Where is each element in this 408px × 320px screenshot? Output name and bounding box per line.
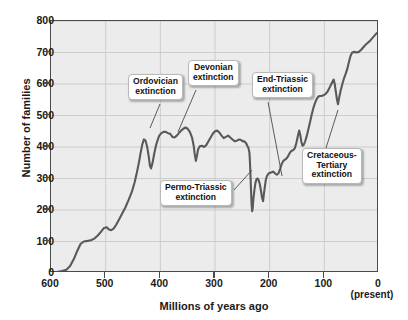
x-tick-label: 400 [134,277,184,289]
y-tick-mark [44,145,50,146]
annotation-ordovician: Ordovician extinction [128,74,183,100]
x-tick-mark [268,272,269,278]
y-tick-label: 800 [14,15,54,25]
chart-figure: 0100200300400500600700800 60050040030020… [0,0,408,320]
y-tick-label: 0 [14,267,54,277]
x-tick-label: 100 [298,277,348,289]
annotation-devonian: Devonian extinction [188,60,239,86]
y-axis-title: Number of families [20,48,32,208]
x-tick-label: 600 [25,277,75,289]
y-tick-mark [44,177,50,178]
x-tick-mark [323,272,324,278]
y-tick-mark [44,240,50,241]
y-tick-mark [44,114,50,115]
annotation-permo-triassic: Permo-Triassic extinction [160,180,232,206]
plot-area [50,20,378,272]
annotation-cretaceous-tertiary: Cretaceous- Tertiary extinction [302,148,362,184]
plot-canvas [51,21,378,272]
x-tick-mark [159,272,160,278]
x-tick-label: 0 [353,277,403,289]
x-tick-mark [213,272,214,278]
x-tick-label: 500 [80,277,130,289]
y-tick-mark [44,82,50,83]
y-tick-mark [44,208,50,209]
y-tick-mark [44,51,50,52]
x-tick-label: 200 [244,277,294,289]
x-tick-mark [104,272,105,278]
annotation-end-triassic: End-Triassic extinction [252,72,313,98]
x-axis-present-note: (present) [336,289,408,300]
x-axis-title: Millions of years ago [50,300,378,312]
x-tick-label: 300 [189,277,239,289]
